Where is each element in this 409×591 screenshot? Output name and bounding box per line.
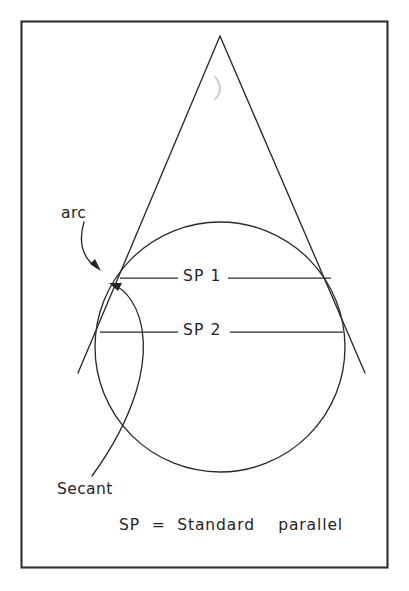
- secant-label: Secant: [57, 482, 113, 498]
- arc-leader-arrowhead-icon: [90, 259, 101, 271]
- diagram-vector-layer: [0, 0, 409, 591]
- globe-circle: [95, 222, 345, 472]
- legend-caption: SP = Standard parallel: [119, 518, 343, 534]
- standard-parallel-2-label: SP 2: [183, 323, 221, 339]
- cone-right-generator-line: [220, 36, 365, 373]
- arc-label: arc: [61, 206, 86, 222]
- standard-parallel-1-label: SP 1: [183, 269, 221, 285]
- figure-canvas: arc Secant SP 1 SP 2 SP = Standard paral…: [0, 0, 409, 591]
- paper-smudge-artifact: [215, 77, 220, 99]
